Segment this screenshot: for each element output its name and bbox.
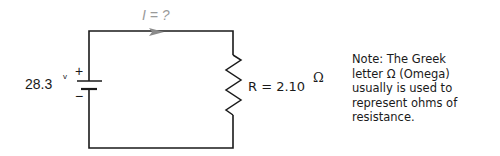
resistance-label: R = 2.10 [248,79,305,94]
note-line: Note: The Greek [352,52,500,67]
wires [89,31,233,148]
minus-sign: − [75,88,83,104]
current-arrow-icon [149,28,164,36]
left-wire-top [89,31,233,81]
left-wire-bottom [89,90,233,148]
voltage-label: 28.3 [25,76,52,92]
resistor-symbol [226,55,241,115]
plus-sign: + [75,63,83,79]
current-label: I = ? [142,7,170,23]
note-line: resistance. [352,110,500,125]
resistance-unit: Ω [313,70,324,85]
circuit-diagram: I = ? + − 28.3 v R = 2.10 Ω [0,0,350,156]
note-line: letter Ω (Omega) [352,67,500,82]
note-line: usually is used to [352,81,500,96]
omega-note: Note: The Greek letter Ω (Omega) usually… [352,52,500,125]
note-line: represent ohms of [352,96,500,111]
voltage-unit: v [63,72,67,81]
